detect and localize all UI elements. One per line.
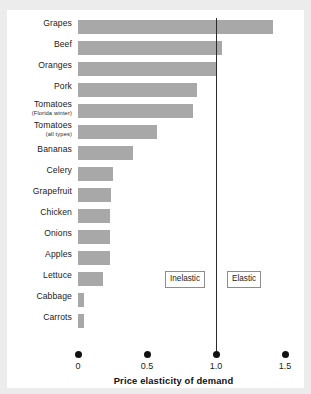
bar: [78, 188, 111, 202]
x-axis-tick-label: 1.0: [196, 361, 236, 371]
bar-row: Carrots: [0, 312, 311, 333]
elastic-region-label: Elastic: [227, 271, 261, 288]
bar-row: Grapefruit: [0, 186, 311, 207]
bar-chart-plot-area: GrapesBeefOrangesPorkTomatoes(Florida wi…: [0, 0, 311, 394]
x-axis-tick-dot: [144, 351, 151, 358]
bar-category-label: Tomatoes(all types): [0, 120, 72, 138]
bar-category-label: Tomatoes(Florida winter): [0, 99, 72, 117]
bar-row: Celery: [0, 165, 311, 186]
bar-row: Cabbage: [0, 291, 311, 312]
bar: [78, 314, 84, 328]
bar-category-label: Bananas: [0, 144, 72, 155]
x-axis-title: Price elasticity of demand: [0, 375, 311, 386]
bar-category-label: Carrots: [0, 312, 72, 323]
bar-row: Grapes: [0, 18, 311, 39]
bar: [78, 125, 157, 139]
x-axis-tick-label: 0.5: [127, 361, 167, 371]
bar: [78, 104, 193, 118]
bar: [78, 209, 110, 223]
bar: [78, 41, 222, 55]
bar-category-label: Pork: [0, 81, 72, 92]
bar: [78, 251, 110, 265]
bar-category-label: Grapes: [0, 18, 72, 29]
bar: [78, 62, 216, 76]
bar-row: Bananas: [0, 144, 311, 165]
figure-mat: GrapesBeefOrangesPorkTomatoes(Florida wi…: [0, 0, 311, 394]
bar-category-sublabel: (all types): [0, 131, 72, 138]
bar-row: Beef: [0, 39, 311, 60]
x-axis-tick-dot: [282, 351, 289, 358]
x-axis-tick-label: 0: [58, 361, 98, 371]
bar-category-label: Cabbage: [0, 291, 72, 302]
bar-category-label: Celery: [0, 165, 72, 176]
elastic-region-text: Elastic: [232, 274, 256, 283]
bar: [78, 167, 113, 181]
bar-category-label: Grapefruit: [0, 186, 72, 197]
bar-row: Tomatoes(all types): [0, 123, 311, 144]
bar: [78, 293, 84, 307]
bar: [78, 20, 273, 34]
bar-row: Onions: [0, 228, 311, 249]
x-axis-tick-dot: [75, 351, 82, 358]
bar-row: Lettuce: [0, 270, 311, 291]
inelastic-region-text: Inelastic: [170, 274, 200, 283]
bar-category-label: Chicken: [0, 207, 72, 218]
bar-row: Oranges: [0, 60, 311, 81]
bar-category-label: Oranges: [0, 60, 72, 71]
inelastic-region-label: Inelastic: [165, 271, 205, 288]
bar-category-label: Beef: [0, 39, 72, 50]
bar: [78, 146, 133, 160]
bar: [78, 230, 110, 244]
bar-row: Apples: [0, 249, 311, 270]
x-axis-tick-label: 1.5: [265, 361, 305, 371]
unit-elastic-line: [216, 18, 217, 356]
bar: [78, 272, 103, 286]
bar: [78, 83, 197, 97]
bar-category-label: Onions: [0, 228, 72, 239]
bar-row: Chicken: [0, 207, 311, 228]
x-axis-tick-dot: [213, 351, 220, 358]
bar-category-label: Lettuce: [0, 270, 72, 281]
bar-category-sublabel: (Florida winter): [0, 110, 72, 117]
bar-category-label: Apples: [0, 249, 72, 260]
